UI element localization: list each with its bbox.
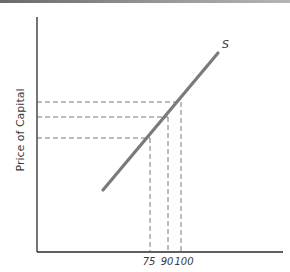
x-tick-75: 75 bbox=[143, 256, 156, 267]
supply-curve-s bbox=[103, 53, 218, 190]
supply-curve-label: S bbox=[222, 38, 229, 51]
y-axis-label: Price of Capital bbox=[14, 89, 27, 172]
supply-chart bbox=[0, 0, 290, 272]
x-tick-90: 90 bbox=[161, 256, 174, 267]
x-tick-100: 100 bbox=[174, 256, 193, 267]
